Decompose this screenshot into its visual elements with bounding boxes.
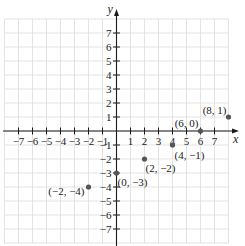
y-tick-label: 5 (106, 55, 112, 67)
y-tick-label: −6 (100, 209, 112, 221)
x-tick-label: −5 (41, 135, 53, 147)
data-point (142, 156, 147, 161)
x-tick-label: 1 (128, 135, 134, 147)
point-label: (8, 1) (203, 104, 227, 117)
y-tick-label: 6 (106, 41, 112, 53)
y-tick-label: −1 (100, 139, 112, 151)
point-label: (4, −1) (175, 149, 205, 162)
y-tick-label: −2 (100, 153, 112, 165)
x-tick-label: −4 (55, 135, 67, 147)
x-tick-label: 6 (198, 135, 204, 147)
data-point (86, 184, 91, 189)
y-tick-label: 3 (106, 83, 112, 95)
y-tick-label: 7 (106, 27, 112, 39)
x-tick-label: −2 (83, 135, 95, 147)
axes (3, 9, 239, 246)
x-tick-label: −3 (69, 135, 81, 147)
y-axis-arrow-icon (114, 9, 119, 16)
coordinate-plane: −7−6−5−4−3−2−11234567−7−6−5−4−3−2−112345… (0, 0, 245, 246)
point-label: (6, 0) (175, 117, 199, 130)
y-tick-label: 4 (106, 69, 112, 81)
x-tick-label: 2 (142, 135, 148, 147)
y-tick-label: −5 (100, 195, 112, 207)
point-label: (2, −2) (146, 162, 176, 175)
y-tick-label: −4 (100, 181, 112, 193)
y-tick-label: 2 (106, 97, 112, 109)
y-tick-label: −3 (100, 167, 112, 179)
data-point (114, 170, 119, 175)
x-tick-label: 7 (212, 135, 218, 147)
x-tick-label: 3 (156, 135, 162, 147)
y-axis-label: y (107, 2, 114, 16)
point-label: (0, −3) (118, 176, 148, 189)
data-points: (8, 1)(6, 0)(4, −1)(2, −2)(0, −3)(−2, −4… (48, 104, 231, 198)
x-axis-label: x (232, 132, 239, 146)
x-tick-label: 5 (184, 135, 190, 147)
x-tick-label: −7 (13, 135, 25, 147)
y-tick-label: 1 (106, 111, 112, 123)
point-label: (−2, −4) (48, 185, 85, 198)
data-point (198, 128, 203, 133)
y-tick-label: −7 (100, 223, 112, 235)
data-point (226, 114, 231, 119)
x-tick-label: −6 (27, 135, 39, 147)
data-point (170, 142, 175, 147)
